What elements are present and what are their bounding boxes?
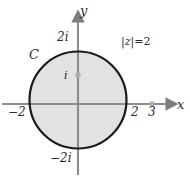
modulus-value: 2: [143, 35, 150, 48]
tick-label-2: 2: [131, 106, 139, 118]
complex-plane-figure: y x 2i i −2i −2 2 3 C |z|=2: [0, 0, 190, 177]
tick-label-i: i: [64, 70, 68, 81]
curve-label-c: C: [29, 48, 39, 61]
tick-label-negative-2: −2: [8, 106, 26, 118]
tick-label-negative-2i: −2i: [50, 152, 72, 164]
point-i-marker: [76, 73, 81, 78]
x-axis-label: x: [177, 98, 184, 111]
tick-label-2i: 2i: [57, 31, 68, 43]
figure-canvas: [0, 0, 190, 177]
y-axis-label: y: [80, 4, 87, 17]
tick-label-3: 3: [148, 106, 156, 118]
circle-equation-label: |z|=2: [121, 36, 150, 47]
